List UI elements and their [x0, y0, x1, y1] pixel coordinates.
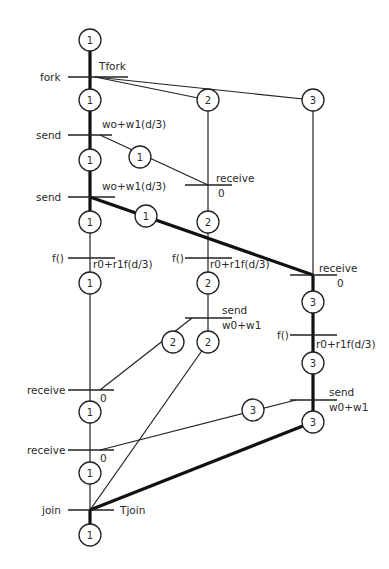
node-c1-c: 1	[79, 211, 101, 233]
f-cost-col3: r0+r1f(d/3)	[316, 338, 376, 350]
send-cost-1: wo+w1(d/3)	[102, 118, 166, 130]
receive-label-col1-b: receive	[27, 444, 65, 456]
f-cost-col2: r0+r1f(d/3)	[210, 258, 270, 270]
svg-text:2: 2	[205, 217, 211, 228]
node-msg2: 1	[135, 205, 157, 227]
node-c3-d: 3	[302, 411, 324, 433]
svg-text:1: 1	[87, 407, 93, 418]
fork-join-diagram: fork Tfork send wo+w1(d/3) send wo+w1(d/…	[0, 0, 389, 569]
node-c2-a: 2	[197, 89, 219, 111]
node-c2-b: 2	[197, 211, 219, 233]
node-msg4: 3	[242, 399, 264, 421]
svg-text:1: 1	[87, 35, 93, 46]
receive-label-col3: receive	[319, 262, 357, 274]
receive-cost-col1-a: 0	[100, 392, 107, 404]
node-c2-d: 2	[197, 331, 219, 353]
node-c1-b: 1	[79, 149, 101, 171]
svg-text:2: 2	[205, 337, 211, 348]
fork-edge-to-2	[95, 77, 208, 100]
svg-text:1: 1	[137, 152, 143, 163]
f-cost-col1: r0+r1f(d/3)	[93, 258, 153, 270]
fork-label: fork	[40, 71, 61, 83]
node-c1-a: 1	[79, 89, 101, 111]
receive-label-col2: receive	[216, 172, 254, 184]
tfork-label: Tfork	[98, 60, 127, 72]
f-label-col3: f()	[277, 329, 289, 341]
send-cost-col2: w0+w1	[222, 319, 261, 331]
node-c1-f: 1	[79, 462, 101, 484]
svg-text:3: 3	[310, 417, 316, 428]
svg-text:1: 1	[87, 468, 93, 479]
node-c1-d: 1	[79, 272, 101, 294]
svg-text:1: 1	[87, 155, 93, 166]
node-start: 1	[79, 29, 101, 51]
join-label: join	[41, 504, 61, 516]
node-msg1: 1	[129, 146, 151, 168]
send-label-2: send	[36, 191, 61, 203]
node-c2-c: 2	[197, 272, 219, 294]
message-edge-3	[100, 318, 192, 390]
send-cost-2: wo+w1(d/3)	[102, 180, 166, 192]
tjoin-label: Tjoin	[119, 504, 145, 516]
message-edge-1	[100, 135, 208, 185]
svg-text:3: 3	[310, 297, 316, 308]
svg-text:1: 1	[87, 530, 93, 541]
f-label-col2: f()	[172, 252, 184, 264]
node-c3-b: 3	[302, 291, 324, 313]
node-c3-a: 3	[302, 89, 324, 111]
receive-cost-col3: 0	[337, 277, 344, 289]
svg-text:2: 2	[170, 337, 176, 348]
svg-text:3: 3	[250, 405, 256, 416]
svg-text:1: 1	[87, 95, 93, 106]
receive-label-col1-a: receive	[27, 384, 65, 396]
svg-text:1: 1	[87, 278, 93, 289]
edge-col3-to-join-critical	[90, 422, 313, 510]
send-cost-col3: w0+w1	[329, 401, 368, 413]
f-label-col1: f()	[52, 252, 64, 264]
send-label-1: send	[36, 129, 61, 141]
svg-text:3: 3	[310, 95, 316, 106]
svg-text:2: 2	[205, 278, 211, 289]
svg-text:1: 1	[143, 211, 149, 222]
node-end: 1	[79, 524, 101, 546]
send-label-col2: send	[222, 304, 247, 316]
node-c3-c: 3	[302, 352, 324, 374]
node-c1-e: 1	[79, 401, 101, 423]
send-label-col3: send	[329, 386, 354, 398]
edge-col2-to-join	[90, 342, 208, 510]
receive-cost-col1-b: 0	[100, 452, 107, 464]
svg-text:1: 1	[87, 217, 93, 228]
svg-text:3: 3	[310, 358, 316, 369]
svg-text:2: 2	[205, 95, 211, 106]
message-edge-4	[100, 400, 296, 450]
node-msg3: 2	[162, 331, 184, 353]
receive-cost-col2: 0	[218, 187, 225, 199]
